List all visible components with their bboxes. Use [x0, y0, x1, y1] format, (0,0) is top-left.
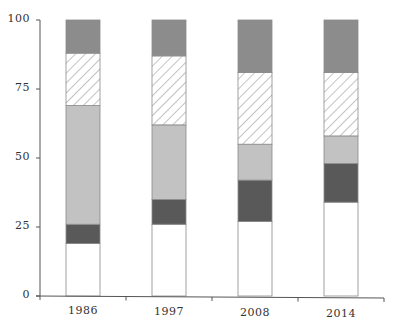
bar-segment-2	[324, 164, 358, 203]
bar-segment-3	[66, 106, 100, 225]
bar-segment-2	[66, 224, 100, 243]
bar-1997	[152, 20, 186, 296]
bar-segment-1	[66, 244, 100, 296]
x-tick-label: 2014	[311, 307, 371, 320]
bar-segment-5	[66, 20, 100, 53]
bar-segment-1	[152, 224, 186, 296]
stacked-bar-chart	[0, 0, 400, 330]
bar-segment-3	[324, 136, 358, 164]
bars-group	[66, 20, 358, 296]
y-tick-label: 75	[0, 81, 30, 94]
bar-2014	[324, 20, 358, 296]
y-tick-label: 25	[0, 219, 30, 232]
bar-segment-4	[324, 72, 358, 135]
bar-segment-3	[238, 144, 272, 180]
y-tick-label: 50	[0, 150, 30, 163]
bar-segment-3	[152, 125, 186, 200]
bar-segment-2	[238, 180, 272, 221]
x-tick-label: 1997	[139, 305, 199, 318]
y-tick-label: 0	[0, 288, 30, 301]
bar-segment-1	[238, 221, 272, 296]
y-tick-label: 100	[0, 12, 30, 25]
bar-segment-5	[152, 20, 186, 56]
bar-segment-2	[152, 199, 186, 224]
bar-segment-5	[238, 20, 272, 72]
bar-segment-4	[238, 72, 272, 144]
x-tick-label: 2008	[225, 306, 285, 319]
bar-2008	[238, 20, 272, 296]
bar-segment-4	[152, 56, 186, 125]
bar-segment-5	[324, 20, 358, 72]
bar-segment-4	[66, 53, 100, 105]
bar-segment-1	[324, 202, 358, 296]
x-tick-label: 1986	[53, 304, 113, 317]
bar-1986	[66, 20, 100, 296]
